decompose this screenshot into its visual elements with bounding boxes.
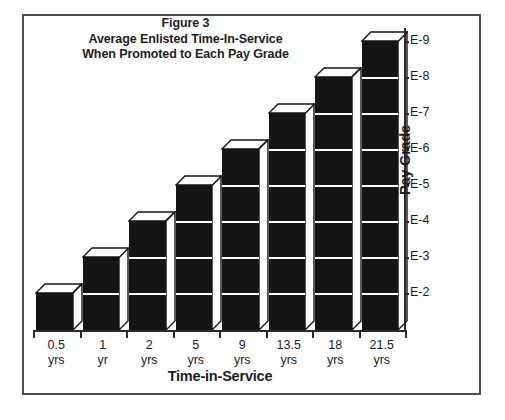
chart-title-line-2: Average Enlisted Time-In-Service (38, 32, 333, 48)
bar-gridline-7-e2 (362, 293, 399, 295)
x-tick-label-0: 0.5yrs (33, 338, 80, 367)
x-tick-label-unit-7: yrs (359, 353, 406, 368)
x-tick-label-value-6: 18 (312, 338, 359, 353)
x-tick-label-4: 9yrs (219, 338, 266, 367)
bar-gridline-7-e4 (362, 221, 399, 223)
figure-container: E-2E-3E-4E-5E-6E-7E-8E-90.5yrs1yr2yrs5yr… (0, 0, 505, 420)
y-tick-label-e-3: E-3 (410, 250, 429, 263)
y-tick-e-3 (404, 257, 409, 259)
x-tick-label-value-4: 9 (219, 338, 266, 353)
x-tick-8 (405, 332, 407, 338)
x-tick-label-unit-1: yr (80, 353, 127, 368)
bar-gridline-7-e5 (362, 185, 399, 187)
x-tick-label-value-1: 1 (80, 338, 127, 353)
x-tick-label-unit-0: yrs (33, 353, 80, 368)
x-tick-label-5: 13.5yrs (266, 338, 313, 367)
y-tick-label-e-9: E-9 (410, 34, 429, 47)
bar-gridline-7-e8 (362, 77, 399, 79)
x-tick-label-3: 5yrs (173, 338, 220, 367)
x-tick-label-unit-6: yrs (312, 353, 359, 368)
chart-title-line-1: Figure 3 (38, 16, 333, 32)
x-tick-label-unit-5: yrs (266, 353, 313, 368)
y-tick-e-2 (404, 293, 409, 295)
y-tick-e-4 (404, 221, 409, 223)
x-tick-label-unit-4: yrs (219, 353, 266, 368)
x-tick-label-value-5: 13.5 (266, 338, 313, 353)
x-tick-label-value-3: 5 (173, 338, 220, 353)
x-tick-label-value-2: 2 (126, 338, 173, 353)
x-tick-label-2: 2yrs (126, 338, 173, 367)
y-tick-label-e-2: E-2 (410, 286, 429, 299)
bar-gridline-7-e6 (362, 149, 399, 151)
x-tick-label-1: 1yr (80, 338, 127, 367)
x-tick-label-unit-3: yrs (173, 353, 220, 368)
y-axis-title: Pay Grade (397, 100, 413, 220)
y-tick-label-e-8: E-8 (410, 70, 429, 83)
bar-gridline-7-e7 (362, 113, 399, 115)
chart-title: Figure 3 Average Enlisted Time-In-Servic… (38, 16, 333, 63)
y-tick-e-8 (404, 77, 409, 79)
y-tick-e-9 (404, 41, 409, 43)
x-tick-label-7: 21.5yrs (359, 338, 406, 367)
chart-title-line-3: When Promoted to Each Pay Grade (38, 47, 333, 63)
x-tick-label-value-0: 0.5 (33, 338, 80, 353)
x-axis-title: Time-in-Service (33, 368, 407, 384)
x-tick-label-unit-2: yrs (126, 353, 173, 368)
x-tick-label-value-7: 21.5 (359, 338, 406, 353)
x-tick-label-6: 18yrs (312, 338, 359, 367)
bar-gridline-7-e3 (362, 257, 399, 259)
